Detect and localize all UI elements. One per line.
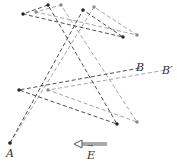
point-b-label: B (136, 62, 144, 73)
collision-point (46, 88, 49, 91)
field-path (8, 3, 166, 144)
collision-point (121, 35, 124, 38)
collision-point (59, 3, 62, 6)
collision-point (92, 5, 95, 8)
collision-point (8, 141, 11, 144)
collision-point (17, 88, 20, 91)
collision-point (135, 120, 138, 123)
field-label: E (87, 150, 95, 161)
collision-point (21, 12, 24, 15)
collision-point (115, 122, 118, 125)
collision-point (46, 3, 49, 6)
collision-point (34, 10, 37, 13)
collision-point (135, 33, 138, 36)
diagram-canvas: A B B′ E → (0, 0, 177, 163)
point-b-prime-label: B′ (162, 65, 173, 76)
vector-arrow-mark: → (87, 143, 93, 150)
collision-point (81, 8, 84, 11)
path-diagram (0, 0, 177, 163)
point-a-label: A (6, 148, 14, 159)
